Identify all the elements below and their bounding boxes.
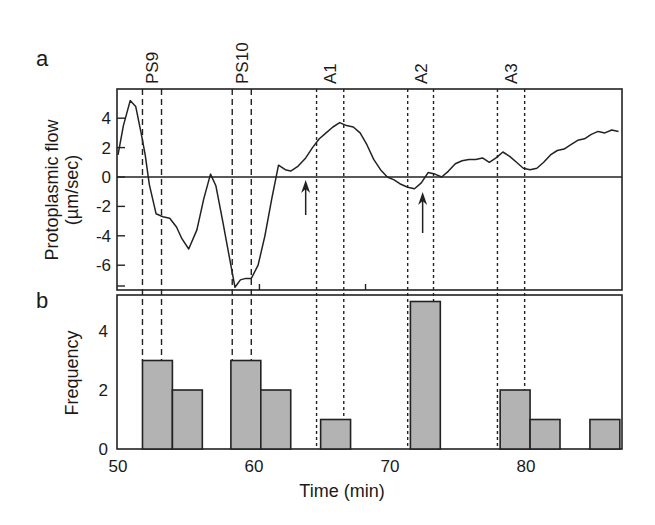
histogram-bar bbox=[172, 390, 202, 449]
histogram-bar bbox=[231, 361, 261, 450]
histogram-bar bbox=[410, 302, 440, 450]
event-markers: PS9PS10A1A2A3 bbox=[142, 42, 524, 449]
y-axis-title-a-line2: (µm/sec) bbox=[62, 155, 82, 225]
y-tick-label-b: 0 bbox=[99, 440, 108, 459]
event-label: A3 bbox=[502, 63, 521, 84]
x-axis-title: Time (min) bbox=[299, 481, 384, 501]
panel-label-b: b bbox=[36, 288, 48, 313]
panel-a-plot: 420-2-4-6 bbox=[96, 89, 622, 290]
y-axis-title-a-line1: Protoplasmic flow bbox=[42, 118, 62, 260]
histogram-bar bbox=[261, 390, 291, 449]
svg-text:PS10: PS10 bbox=[233, 42, 252, 84]
histogram-bar bbox=[590, 420, 620, 450]
arrow-icon bbox=[418, 192, 427, 233]
x-tick-label: 50 bbox=[109, 457, 128, 476]
svg-text:A1: A1 bbox=[321, 63, 340, 84]
figure: a b Protoplasmic flow (µm/sec) Frequency… bbox=[0, 0, 655, 525]
y-tick-label-a: 4 bbox=[102, 109, 111, 128]
histogram-bar bbox=[142, 361, 172, 450]
y-tick-label-b: 2 bbox=[99, 381, 108, 400]
event-label: PS9 bbox=[143, 52, 162, 84]
y-tick-label-a: -2 bbox=[96, 197, 111, 216]
panel-label-a: a bbox=[36, 46, 49, 71]
y-tick-label-a: -6 bbox=[96, 256, 111, 275]
svg-text:A2: A2 bbox=[412, 63, 431, 84]
y-tick-label-a: 2 bbox=[102, 139, 111, 158]
svg-text:A3: A3 bbox=[502, 63, 521, 84]
y-axis-title-b: Frequency bbox=[62, 330, 82, 415]
histogram-bar bbox=[500, 390, 530, 449]
x-tick-label: 80 bbox=[517, 457, 536, 476]
y-tick-label-a: 0 bbox=[102, 168, 111, 187]
y-tick-label-b: 4 bbox=[99, 322, 108, 341]
svg-text:PS9: PS9 bbox=[143, 52, 162, 84]
histogram-bar bbox=[321, 420, 351, 450]
x-tick-label: 70 bbox=[381, 457, 400, 476]
y-axis-title-a: Protoplasmic flow (µm/sec) bbox=[42, 118, 82, 260]
event-label: A2 bbox=[412, 63, 431, 84]
x-tick-label: 60 bbox=[245, 457, 264, 476]
y-tick-label-a: -4 bbox=[96, 227, 111, 246]
event-label: A1 bbox=[321, 63, 340, 84]
panel-a-frame bbox=[117, 89, 622, 290]
panel-b-plot: 02450607080 bbox=[99, 295, 622, 476]
arrow-icon bbox=[301, 180, 310, 215]
event-label: PS10 bbox=[233, 42, 252, 84]
histogram-bar bbox=[530, 420, 560, 450]
flow-trace bbox=[118, 101, 619, 288]
y-axis-title-b-text: Frequency bbox=[62, 330, 82, 415]
